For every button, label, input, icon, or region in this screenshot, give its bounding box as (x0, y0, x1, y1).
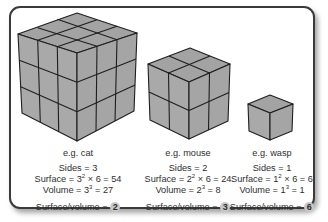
example-label: e.g. wasp (224, 148, 320, 159)
sides-label: Sides = 1 (224, 163, 320, 174)
ratio-label: Surface/volume = 6 (224, 202, 320, 213)
small-cube-wasp (248, 95, 293, 140)
caption-wasp: e.g. wasp Sides = 1 Surface = 12 × 6 = 6… (224, 148, 320, 213)
caption-cat: e.g. cat Sides = 3 Surface = 32 × 6 = 54… (14, 148, 142, 213)
volume-label: Volume = 13 = 1 (224, 185, 320, 196)
surface-label: Surface = 32 × 6 = 54 (14, 174, 142, 185)
ratio-badge: 2 (110, 202, 120, 212)
medium-cube-mouse (148, 48, 230, 139)
large-cube-cat (18, 13, 137, 141)
surface-label: Surface = 12 × 6 = 6 (224, 174, 320, 185)
sides-label: Sides = 3 (14, 163, 142, 174)
ratio-badge: 6 (304, 202, 314, 212)
example-label: e.g. cat (14, 148, 142, 159)
volume-label: Volume = 33 = 27 (14, 185, 142, 196)
ratio-label: Surface/volume = 2 (14, 202, 142, 213)
